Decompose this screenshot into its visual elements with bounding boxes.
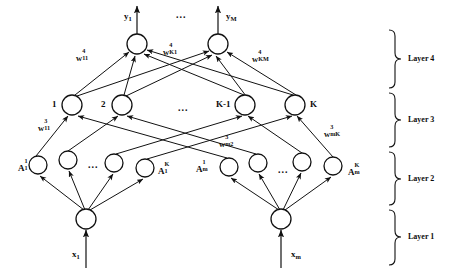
node-a-m-2 [249, 154, 267, 172]
layer3-node-label-1: 1 [52, 100, 57, 109]
weight-label-w3-11: w311 [38, 122, 51, 133]
node-a-1-2 [59, 151, 77, 169]
input-arrows [86, 230, 281, 268]
bracket-layer4-shape [389, 30, 401, 88]
layer-bracket-label-layer3: Layer 3 [408, 116, 434, 124]
node-out-M [208, 34, 228, 54]
input-label-x1: x1 [72, 250, 80, 259]
layer-bracket-label-layer1: Layer 1 [408, 233, 434, 241]
weight-label-w3-mK: w3mK [324, 128, 337, 139]
network-nodes [29, 34, 342, 229]
bracket-layer3-shape [389, 93, 401, 147]
layer-brackets [389, 30, 401, 265]
weight-label-w4-KM: w4KM [252, 53, 265, 64]
output-label-y1: y1 [124, 12, 132, 21]
node-in-1 [76, 209, 96, 229]
node-h3-Km1 [235, 95, 255, 115]
bracket-layer1-shape [389, 210, 401, 265]
output-label-yM: yM [226, 12, 237, 21]
layer-bracket-label-layer2: Layer 2 [408, 175, 434, 183]
layer3-node-label-K-minus-1: K-1 [216, 100, 231, 109]
node-a-1-4 [136, 159, 154, 177]
node-in-m [271, 209, 291, 229]
layer-bracket-label-layer4: Layer 4 [408, 55, 434, 63]
weight-label-w4-K1: w4K1 [163, 46, 176, 57]
layer2-groupm-ellipsis: ... [278, 165, 289, 175]
node-out-1 [127, 34, 147, 54]
layer3-node-label-2: 2 [101, 100, 106, 109]
layer2-group1-ellipsis: ... [88, 160, 99, 170]
layer2-label-A-K-m: AKm [348, 166, 362, 177]
edges-layer2-to-layer3 [36, 116, 333, 159]
edges-layer1-to-layer2 [40, 171, 331, 210]
weight-label-w3-m2: w3m2 [219, 138, 232, 149]
layer2-label-A-1-m: A1m [196, 163, 210, 174]
layer3-node-label-K: K [310, 100, 317, 109]
bracket-layer2-shape [389, 152, 401, 205]
weight-label-w4-11: w411 [76, 52, 89, 63]
layer2-label-A-1-1: A11 [18, 162, 32, 173]
node-a-1-3 [105, 154, 123, 172]
node-h3-1 [62, 95, 82, 115]
node-a-m-3 [293, 153, 311, 171]
node-h3-K [285, 95, 305, 115]
output-ellipsis: ... [176, 10, 187, 20]
node-a-1-1 [29, 156, 47, 174]
layer2-label-A-K-1: AK1 [158, 165, 172, 176]
layer3-ellipsis: ... [178, 103, 189, 113]
figure-canvas: y1 yM ... 1 2 K-1 K ... A11 AK1 ... A1m … [0, 0, 454, 273]
node-a-m-1 [220, 158, 238, 176]
node-a-m-4 [324, 157, 342, 175]
node-h3-2 [112, 95, 132, 115]
input-label-xm: xm [291, 250, 301, 259]
